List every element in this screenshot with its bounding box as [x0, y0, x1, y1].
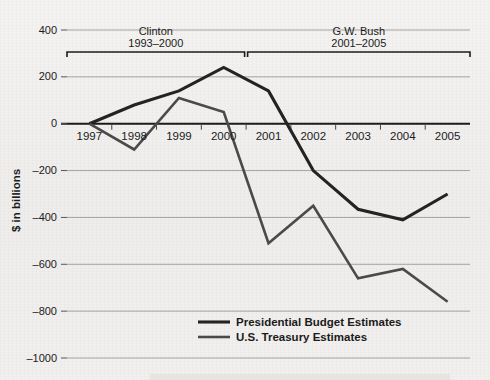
legend-label: U.S. Treasury Estimates [236, 331, 367, 343]
era-brackets [67, 52, 470, 57]
chart-legend: Presidential Budget EstimatesU.S. Treasu… [198, 316, 402, 343]
y-tick-label: 400 [39, 24, 57, 36]
x-tick-label: 2000 [211, 130, 237, 142]
x-tick-label: 1997 [77, 130, 103, 142]
x-tick-label: 2004 [390, 130, 416, 142]
y-tick-label: 0 [51, 117, 57, 129]
y-tick-label: –1000 [26, 352, 57, 364]
x-tick-label: 2002 [300, 130, 326, 142]
gridlines [67, 30, 470, 358]
y-tick-marks [61, 30, 67, 358]
era-years: 1993–2000 [128, 37, 183, 49]
x-tick-label: 2005 [435, 130, 461, 142]
y-tick-label: –200 [33, 164, 57, 176]
x-tick-label: 1998 [121, 130, 147, 142]
y-tick-label: –800 [33, 305, 57, 317]
cut-off-caption [150, 374, 450, 380]
series-line-1 [89, 67, 447, 219]
budget-deficit-line-chart: 4002000–200–400–600–800–1000 19971998199… [0, 0, 490, 380]
y-tick-label: 200 [39, 70, 57, 82]
legend-label: Presidential Budget Estimates [236, 316, 402, 328]
era-labels: Clinton1993–2000G.W. Bush2001–2005 [128, 25, 386, 49]
x-tick-labels: 199719981999200020012002200320042005 [77, 130, 461, 142]
y-tick-label: –400 [33, 211, 57, 223]
data-series-layer [89, 67, 447, 301]
series-line-2 [89, 98, 447, 302]
x-tick-label: 2003 [345, 130, 371, 142]
era-bracket [67, 52, 245, 57]
era-years: 2001–2005 [331, 37, 386, 49]
y-tick-label: –600 [33, 258, 57, 270]
y-axis-title: $ in billions [10, 169, 22, 232]
y-tick-labels: 4002000–200–400–600–800–1000 [26, 24, 57, 364]
era-bracket [248, 52, 470, 57]
x-tick-label: 1999 [166, 130, 192, 142]
x-tick-label: 2001 [256, 130, 282, 142]
chart-canvas: 4002000–200–400–600–800–1000 19971998199… [0, 0, 490, 380]
era-name: Clinton [139, 25, 173, 37]
era-name: G.W. Bush [333, 25, 386, 37]
